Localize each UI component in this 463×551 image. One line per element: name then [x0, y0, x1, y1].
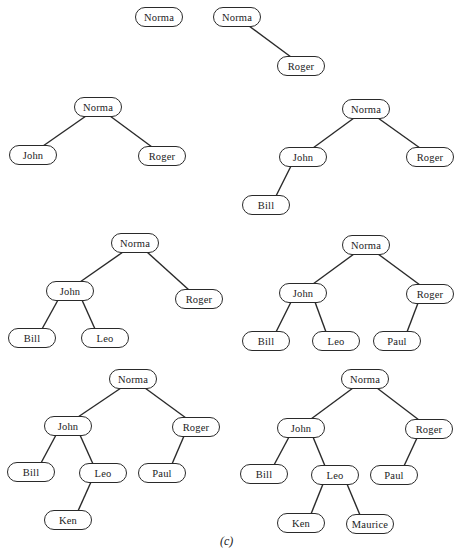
- tree-node-paul: Paul: [138, 463, 186, 483]
- tree-node-john: John: [46, 281, 94, 301]
- tree-node-bill: Bill: [242, 195, 290, 215]
- tree-edge: [311, 484, 323, 514]
- tree-node-norma: Norma: [109, 369, 157, 389]
- tree-edge: [404, 438, 417, 466]
- tree-node-paul: Paul: [370, 465, 418, 485]
- tree-node-roger: Roger: [175, 289, 223, 309]
- tree-edge: [249, 26, 291, 57]
- tree-node-ken: Ken: [44, 510, 92, 530]
- tree-node-roger: Roger: [277, 56, 325, 76]
- tree-edge: [41, 435, 56, 463]
- tree-node-leo: Leo: [79, 463, 127, 483]
- tree-edge: [378, 254, 420, 285]
- tree-edge: [313, 118, 354, 148]
- tree-node-norma: Norma: [74, 97, 122, 117]
- tree-node-john: John: [279, 283, 327, 303]
- tree-edge: [347, 484, 360, 515]
- tree-edge: [78, 388, 121, 417]
- tree-node-john: John: [279, 147, 327, 167]
- tree-edge: [276, 302, 291, 332]
- tree-node-roger: Roger: [406, 147, 454, 167]
- tree-edge: [311, 388, 353, 419]
- tree-edge: [377, 388, 419, 420]
- tree-edge: [378, 118, 420, 148]
- tree-edge: [82, 300, 95, 329]
- tree-node-bill: Bill: [242, 331, 290, 351]
- tree-node-leo: Leo: [81, 328, 129, 348]
- tree-node-bill: Bill: [240, 464, 288, 484]
- tree-edge: [78, 482, 91, 511]
- tree-node-norma: Norma: [135, 7, 183, 27]
- tree-node-maurice: Maurice: [346, 514, 394, 534]
- tree-node-john: John: [9, 145, 57, 165]
- figure-caption: (c): [220, 534, 233, 549]
- tree-node-paul: Paul: [373, 331, 421, 351]
- tree-edge: [313, 437, 325, 466]
- tree-edge: [315, 302, 326, 332]
- tree-edge: [110, 116, 152, 147]
- tree-node-norma: Norma: [342, 235, 390, 255]
- tree-node-norma: Norma: [111, 233, 159, 253]
- tree-node-leo: Leo: [311, 465, 359, 485]
- tree-edge: [80, 435, 93, 464]
- tree-node-john: John: [277, 418, 325, 438]
- tree-node-roger: Roger: [406, 284, 454, 304]
- tree-node-roger: Roger: [172, 417, 220, 437]
- tree-edge: [407, 303, 418, 332]
- tree-node-bill: Bill: [7, 462, 55, 482]
- tree-node-john: John: [44, 416, 92, 436]
- tree-edge: [172, 436, 184, 464]
- tree-node-roger: Roger: [405, 419, 453, 439]
- tree-edge: [313, 254, 354, 284]
- tree-node-roger: Roger: [138, 146, 186, 166]
- tree-node-leo: Leo: [312, 331, 360, 351]
- tree-node-bill: Bill: [8, 328, 56, 348]
- tree-node-norma: Norma: [213, 7, 261, 27]
- tree-edge: [42, 300, 58, 329]
- tree-edge: [147, 252, 189, 290]
- tree-node-norma: Norma: [341, 369, 389, 389]
- tree-edge: [274, 437, 289, 465]
- tree-node-ken: Ken: [277, 513, 325, 533]
- tree-edge: [80, 252, 123, 282]
- tree-edge: [145, 388, 186, 418]
- tree-edge: [276, 166, 291, 196]
- tree-edge: [43, 116, 86, 146]
- tree-node-norma: Norma: [342, 99, 390, 119]
